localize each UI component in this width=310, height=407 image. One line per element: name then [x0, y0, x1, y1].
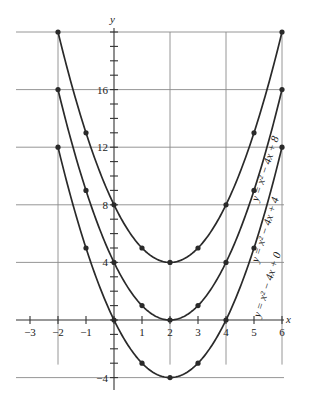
- x-tick-label: 3: [195, 326, 201, 338]
- data-point: [195, 361, 200, 366]
- data-point: [111, 317, 116, 322]
- data-point: [83, 130, 88, 135]
- data-point: [55, 87, 60, 92]
- x-tick-label: 6: [279, 326, 285, 338]
- data-point: [139, 303, 144, 308]
- data-point: [139, 361, 144, 366]
- x-axis-label: x: [285, 313, 291, 325]
- y-tick-label: 8: [103, 199, 109, 211]
- y-axis-label: y: [109, 13, 115, 25]
- data-point: [195, 245, 200, 250]
- x-tick-label: −2: [52, 326, 64, 338]
- data-point: [83, 188, 88, 193]
- data-point: [279, 145, 284, 150]
- data-point: [111, 202, 116, 207]
- x-tick-label: 4: [223, 326, 229, 338]
- x-tick-label: 1: [139, 326, 145, 338]
- data-point: [55, 29, 60, 34]
- data-point: [167, 260, 172, 265]
- data-point: [251, 130, 256, 135]
- x-tick-label: 5: [251, 326, 257, 338]
- data-point: [167, 317, 172, 322]
- data-point: [55, 145, 60, 150]
- data-point: [83, 245, 88, 250]
- data-point: [223, 260, 228, 265]
- y-tick-label: −4: [96, 372, 108, 384]
- y-tick-label: 4: [103, 256, 109, 268]
- tick-labels: −3−2−1123456−4481216: [24, 84, 285, 384]
- data-point: [279, 87, 284, 92]
- data-point: [111, 260, 116, 265]
- y-tick-label: 12: [97, 141, 108, 153]
- parabola-chart: −3−2−1123456−4481216 x y y = x² − 4x + 8…: [0, 0, 310, 407]
- x-tick-label: −1: [80, 326, 92, 338]
- data-point: [279, 29, 284, 34]
- data-point: [195, 303, 200, 308]
- y-tick-label: 16: [97, 84, 109, 96]
- x-tick-label: 2: [167, 326, 173, 338]
- x-tick-label: −3: [24, 326, 36, 338]
- data-point: [223, 202, 228, 207]
- data-point: [139, 245, 144, 250]
- data-point: [223, 317, 228, 322]
- data-point: [167, 375, 172, 380]
